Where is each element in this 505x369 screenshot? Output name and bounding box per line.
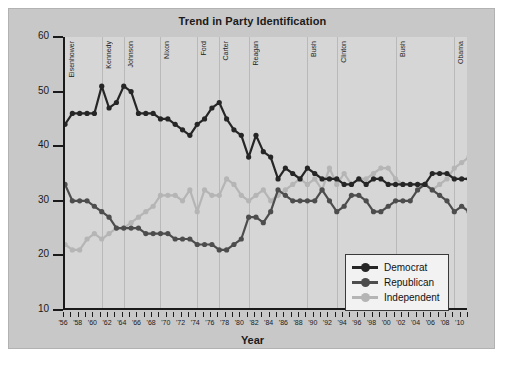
data-point-independent (378, 165, 383, 170)
data-point-democrat (173, 122, 178, 127)
data-point-independent (334, 182, 339, 187)
legend-swatch-icon (352, 277, 378, 288)
x-axis-tick (313, 312, 314, 317)
x-axis-tick (349, 312, 350, 317)
x-axis-tick (438, 312, 439, 317)
x-axis-tick (70, 312, 71, 317)
data-point-democrat (371, 176, 376, 181)
data-point-democrat (356, 176, 361, 181)
data-point-independent (437, 182, 442, 187)
x-axis-tick (408, 312, 409, 317)
data-point-democrat (143, 111, 148, 116)
data-point-republican (290, 198, 295, 203)
data-point-republican (275, 187, 280, 192)
x-axis-tick (78, 312, 79, 317)
data-point-republican (209, 242, 214, 247)
data-point-democrat (121, 84, 126, 89)
data-point-democrat (393, 182, 398, 187)
legend-item: Democrat (352, 260, 440, 275)
y-axis-tick (53, 309, 63, 311)
data-point-republican (319, 187, 324, 192)
data-point-democrat (386, 182, 391, 187)
x-axis-tick (394, 312, 395, 317)
data-point-republican (430, 187, 435, 192)
data-point-democrat (342, 182, 347, 187)
x-axis-tick (151, 312, 152, 317)
x-axis-tick (100, 312, 101, 317)
data-point-independent (129, 220, 134, 225)
data-point-democrat (180, 127, 185, 132)
data-point-republican (173, 236, 178, 241)
legend-label: Republican (384, 277, 434, 288)
data-point-democrat (275, 176, 280, 181)
x-axis-tick (335, 312, 336, 317)
data-point-independent (202, 187, 207, 192)
data-point-independent (459, 160, 464, 165)
x-axis-tick (320, 312, 321, 317)
data-point-republican (253, 215, 258, 220)
y-axis-tick-label: 50 (21, 85, 49, 96)
data-point-democrat (268, 155, 273, 160)
legend-item: Independent (352, 290, 440, 305)
data-point-independent (151, 204, 156, 209)
data-point-republican (297, 198, 302, 203)
data-point-republican (364, 198, 369, 203)
x-axis-tick (217, 312, 218, 317)
x-axis-tick (298, 312, 299, 317)
data-point-republican (158, 231, 163, 236)
data-point-republican (268, 209, 273, 214)
data-point-democrat (466, 176, 467, 181)
x-axis-tick (291, 312, 292, 317)
y-axis-tick-label: 20 (21, 248, 49, 259)
y-axis-tick (53, 36, 63, 38)
chart-figure: Trend in Party Identification Eisenhower… (0, 0, 505, 369)
data-point-democrat (400, 182, 405, 187)
x-axis-tick (401, 312, 402, 317)
data-point-independent (444, 176, 449, 181)
x-axis-tick (107, 312, 108, 317)
y-axis-tick-label: 30 (21, 194, 49, 205)
data-point-republican (224, 247, 229, 252)
x-axis-tick (430, 312, 431, 317)
x-axis-tick (386, 312, 387, 317)
data-point-democrat (106, 105, 111, 110)
data-point-democrat (224, 116, 229, 121)
legend-label: Democrat (384, 262, 427, 273)
data-point-republican (415, 187, 420, 192)
data-point-democrat (283, 165, 288, 170)
data-point-democrat (349, 182, 354, 187)
x-axis-tick (122, 312, 123, 317)
x-axis-tick (114, 312, 115, 317)
data-point-independent (99, 236, 104, 241)
x-axis-tick (203, 312, 204, 317)
data-point-independent (70, 247, 75, 252)
data-point-republican (65, 182, 68, 187)
data-point-republican (386, 204, 391, 209)
data-point-democrat (209, 105, 214, 110)
y-axis-tick (53, 200, 63, 202)
data-point-independent (209, 193, 214, 198)
data-point-republican (143, 231, 148, 236)
data-point-democrat (452, 176, 457, 181)
data-point-republican (106, 215, 111, 220)
data-point-independent (452, 165, 457, 170)
data-point-democrat (305, 165, 310, 170)
data-point-democrat (231, 127, 236, 132)
data-point-republican (114, 226, 119, 231)
data-point-republican (400, 198, 405, 203)
x-axis-tick (181, 312, 182, 317)
data-point-independent (143, 209, 148, 214)
x-axis-tick (173, 312, 174, 317)
data-point-democrat (246, 155, 251, 160)
y-axis-tick-label: 40 (21, 139, 49, 150)
figure-panel: Trend in Party Identification Eisenhower… (8, 8, 495, 349)
data-point-independent (77, 247, 82, 252)
data-point-democrat (136, 111, 141, 116)
data-point-independent (106, 231, 111, 236)
data-point-independent (371, 171, 376, 176)
data-point-independent (224, 176, 229, 181)
data-point-republican (408, 198, 413, 203)
x-axis-title: Year (9, 334, 496, 346)
data-point-republican (151, 231, 156, 236)
data-point-independent (290, 182, 295, 187)
